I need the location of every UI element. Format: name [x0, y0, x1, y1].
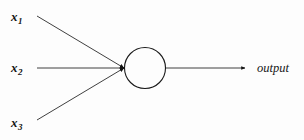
input-label-x2: x2 [11, 61, 22, 74]
neuron-body-circle [125, 48, 166, 89]
neuron-diagram: x1 x2 x3 output [0, 0, 304, 140]
input-label-x1-subscript: 1 [18, 16, 23, 26]
output-label: output [257, 62, 289, 75]
input-label-x3-subscript: 3 [18, 122, 23, 132]
input-label-x1-base: x [11, 9, 18, 24]
input-line-x3 [37, 68, 124, 120]
input-label-x2-subscript: 2 [18, 67, 23, 77]
input-label-x2-base: x [11, 60, 18, 75]
input-label-x1: x1 [11, 10, 22, 23]
input-line-x1 [37, 16, 124, 68]
input-label-x3-base: x [11, 115, 18, 130]
input-label-x3: x3 [11, 116, 22, 129]
